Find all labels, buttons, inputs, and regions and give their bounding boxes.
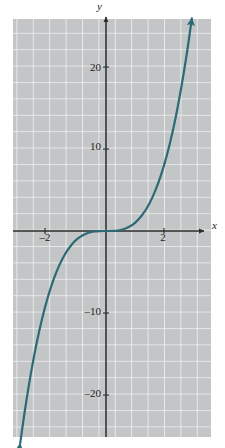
y-tick-label-10: 10 (79, 140, 101, 152)
y-tick-label-neg20: –20 (76, 387, 101, 399)
y-tick-label-neg10: –10 (76, 305, 101, 317)
x-tick-label-2: 2 (153, 231, 173, 243)
y-axis-label: y (97, 0, 102, 12)
graph-figure: y x 20 10 –10 –20 –2 2 (0, 0, 225, 448)
cubic-function-graph (0, 0, 225, 448)
x-axis-label: x (212, 219, 217, 231)
y-tick-label-20: 20 (79, 61, 101, 73)
x-tick-label-neg2: –2 (33, 231, 57, 243)
